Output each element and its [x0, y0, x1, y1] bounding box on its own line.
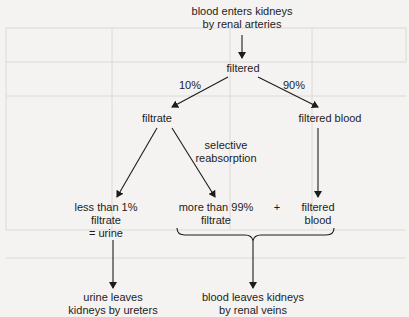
node-line: blood enters kidneys — [192, 5, 293, 18]
node-filtrate: filtrate — [142, 112, 172, 125]
node-line: blood leaves kidneys — [202, 291, 304, 304]
node-line: blood — [301, 214, 334, 227]
node-reabsorbed-portion: more than 99% filtrate — [179, 201, 254, 227]
node-filtered-blood: filtered blood — [299, 112, 362, 125]
node-blood-exit: blood leaves kidneys by renal veins — [202, 291, 304, 317]
node-line: more than 99% — [179, 201, 254, 214]
label-90-percent: 90% — [283, 79, 305, 92]
node-line: kidneys by ureters — [68, 304, 157, 317]
arrow-filtrate-to-urine — [117, 128, 157, 197]
node-blood-enters: blood enters kidneys by renal arteries — [192, 5, 293, 31]
node-line: filtrate — [75, 214, 138, 227]
plus-sign: + — [274, 201, 280, 214]
node-line: filtered — [301, 201, 334, 214]
node-line: by renal veins — [202, 304, 304, 317]
node-line: = urine — [75, 227, 138, 240]
node-line: by renal arteries — [192, 18, 293, 31]
node-urine-exit: urine leaves kidneys by ureters — [68, 291, 157, 317]
brace-combine — [177, 228, 334, 241]
node-line: urine leaves — [68, 291, 157, 304]
label-selective-reabsorption: selective reabsorption — [195, 139, 256, 165]
node-line: selective — [195, 139, 256, 152]
node-line: reabsorption — [195, 152, 256, 165]
node-filtered-blood-2: filtered blood — [301, 201, 334, 227]
node-line: less than 1% — [75, 201, 138, 214]
node-urine-portion: less than 1% filtrate = urine — [75, 201, 138, 240]
node-line: filtrate — [179, 214, 254, 227]
node-filtered: filtered — [226, 62, 259, 75]
label-10-percent: 10% — [179, 79, 201, 92]
